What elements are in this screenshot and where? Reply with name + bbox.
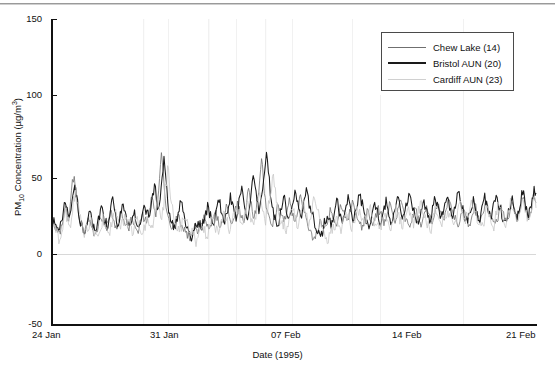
x-axis-title: Date (1995) (0, 349, 555, 360)
x-axis-line (51, 324, 537, 326)
y-axis-line (51, 19, 53, 326)
y-axis-title-sub: 10 (18, 194, 25, 202)
legend-label-cardiff-aun: Cardiff AUN (23) (433, 74, 503, 85)
chart-figure: 150 100 50 0 -50 24 Jan 31 Jan 07 Feb 14… (0, 0, 555, 371)
y-tick-label-minus50: -50 (2, 318, 42, 329)
x-tick-label-14feb: 14 Feb (392, 329, 422, 340)
legend-item-bristol-aun[interactable]: Bristol AUN (20) (388, 55, 507, 71)
y-tick-label-0: 0 (2, 248, 42, 259)
legend-label-chew-lake: Chew Lake (14) (433, 42, 500, 53)
line-swatch-light-icon (388, 79, 426, 80)
y-axis-title-suffix: ) (12, 98, 23, 101)
line-swatch-black-icon (388, 62, 426, 64)
chart-legend: Chew Lake (14) Bristol AUN (20) Cardiff … (381, 32, 514, 91)
legend-label-bristol-aun: Bristol AUN (20) (433, 58, 501, 69)
x-tick-label-31jan: 31 Jan (150, 329, 179, 340)
y-axis-title: PM10 Concentration (µg/m3) (11, 77, 25, 237)
y-tick-50 (52, 178, 57, 179)
y-tick-100 (52, 95, 57, 96)
series-line (52, 152, 536, 241)
line-swatch-gray-icon (388, 47, 426, 48)
y-tick-0 (52, 254, 57, 255)
x-tick-label-24jan: 24 Jan (32, 329, 61, 340)
y-axis-title-mid: Concentration (µg/m (12, 105, 23, 194)
y-tick-label-150: 150 (2, 13, 42, 24)
y-tick-minus50 (52, 324, 57, 325)
y-axis-title-prefix: PM (12, 202, 23, 216)
x-tick-label-07feb: 07 Feb (271, 329, 301, 340)
legend-item-chew-lake[interactable]: Chew Lake (14) (388, 39, 507, 55)
y-axis-title-sup: 3 (11, 101, 18, 105)
x-tick-label-21feb: 21 Feb (506, 329, 536, 340)
legend-item-cardiff-aun[interactable]: Cardiff AUN (23) (388, 71, 507, 87)
y-tick-150 (52, 19, 57, 20)
